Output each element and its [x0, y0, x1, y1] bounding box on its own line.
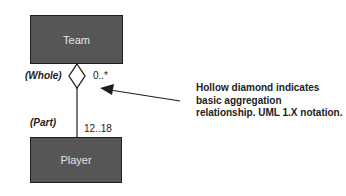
class-player-label: Player	[60, 154, 91, 166]
class-player[interactable]: Player	[30, 137, 122, 183]
class-team-label: Team	[63, 34, 90, 46]
annotation-arrow-shaft	[110, 90, 180, 101]
part-role-label: (Part)	[30, 117, 56, 128]
annotation-line: Hollow diamond indicates	[196, 82, 343, 95]
annotation-note: Hollow diamond indicates basic aggregati…	[196, 82, 343, 120]
annotation-line: relationship. UML 1.X notation.	[196, 107, 343, 120]
annotation-line: basic aggregation	[196, 95, 343, 108]
whole-multiplicity-label: 0..*	[93, 70, 108, 81]
hollow-diamond-icon	[69, 64, 85, 88]
class-team[interactable]: Team	[30, 15, 123, 64]
part-multiplicity-label: 12..18	[84, 123, 112, 134]
arrowhead-icon	[100, 84, 114, 95]
whole-role-label: (Whole)	[25, 70, 62, 81]
